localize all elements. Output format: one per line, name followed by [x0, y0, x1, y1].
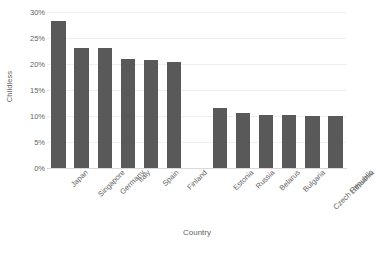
x-axis-tick-label: Japan	[69, 168, 90, 189]
x-axis-tick-label: Russia	[254, 168, 277, 191]
bar[interactable]	[121, 59, 135, 168]
x-axis-tick-label: Belarus	[278, 168, 302, 192]
y-axis-tick-label: 10%	[30, 112, 45, 121]
y-axis-tick-label: 5%	[34, 138, 45, 147]
x-axis-tick-label: Bulgaria	[301, 168, 327, 194]
y-axis-tick-label: 0%	[34, 164, 45, 173]
x-axis-tick-label: Finland	[185, 168, 209, 192]
y-axis-tick-label: 20%	[30, 60, 45, 69]
bar[interactable]	[236, 113, 250, 168]
bar[interactable]	[167, 62, 181, 168]
y-axis-title: Childless	[2, 0, 18, 172]
bar[interactable]	[259, 115, 273, 168]
plot-area	[47, 12, 347, 168]
x-axis-tick-label: Spain	[160, 168, 180, 188]
bar[interactable]	[213, 108, 227, 168]
bar[interactable]	[282, 115, 296, 168]
x-axis-tick-label: Estonia	[231, 168, 255, 192]
y-axis-tick-label: 15%	[30, 86, 45, 95]
x-axis-tick-labels: JapanSingaporeGermanyItalySpainFinlandEs…	[47, 168, 347, 226]
y-axis-tick-labels: 0%5%10%15%20%25%30%	[18, 12, 45, 168]
y-axis-tick-label: 30%	[30, 8, 45, 17]
x-axis-tick-label: Lithuania	[348, 168, 376, 196]
y-axis-tick-label: 25%	[30, 34, 45, 43]
bar[interactable]	[305, 116, 319, 168]
bar[interactable]	[144, 60, 158, 168]
bar[interactable]	[98, 48, 112, 168]
bars-layer	[47, 12, 347, 168]
bar[interactable]	[328, 116, 342, 168]
bar[interactable]	[51, 21, 65, 168]
x-axis-title: Country	[47, 228, 347, 237]
bar[interactable]	[74, 48, 88, 168]
y-axis-title-label: Childless	[6, 70, 15, 101]
